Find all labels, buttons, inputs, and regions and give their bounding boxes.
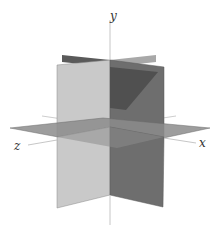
z-axis-label: z xyxy=(13,139,21,153)
x-axis-front-line xyxy=(164,138,196,143)
y-axis-label: y xyxy=(109,9,117,23)
planes-diagram: y z x xyxy=(0,0,220,237)
coordinate-planes-figure: y z x xyxy=(0,0,220,237)
z-axis-front-line xyxy=(28,140,57,145)
x-axis-label: x xyxy=(199,136,206,150)
